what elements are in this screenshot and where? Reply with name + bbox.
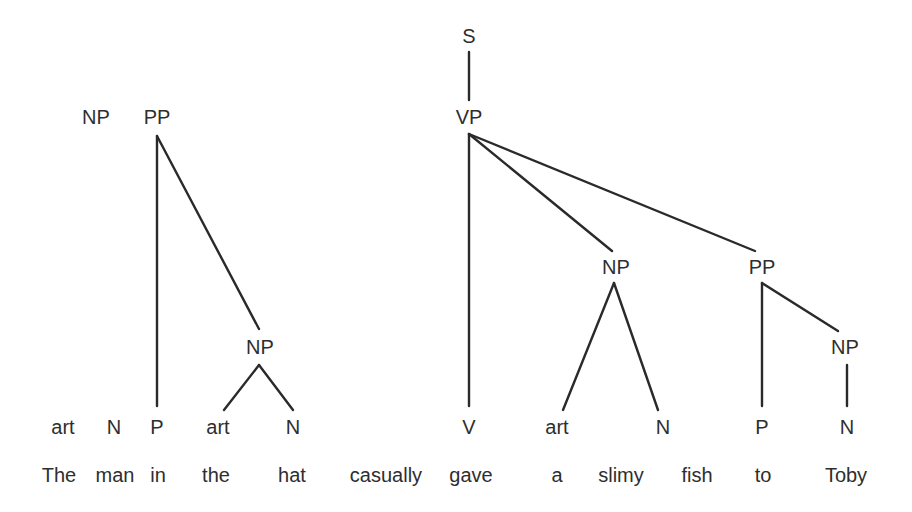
word-hat: hat xyxy=(278,465,306,485)
edge-np_hat-to-art2 xyxy=(224,365,259,410)
node-np_obj: NP xyxy=(602,257,630,277)
word-toby: Toby xyxy=(825,465,867,485)
edge-np_obj-to-n3 xyxy=(614,283,658,410)
node-pp_left: PP xyxy=(144,107,171,127)
word-the: The xyxy=(42,465,76,485)
node-np_top: NP xyxy=(82,107,110,127)
node-art1: art xyxy=(51,417,74,437)
node-art2: art xyxy=(206,417,229,437)
node-np_toby: NP xyxy=(831,337,859,357)
edge-vp-to-np_obj xyxy=(469,134,612,251)
edge-np_obj-to-art3 xyxy=(563,283,614,410)
edge-vp-to-pp_to xyxy=(469,134,755,251)
word-a: a xyxy=(551,465,562,485)
node-pp_to: PP xyxy=(749,257,776,277)
node-p2: P xyxy=(755,417,768,437)
node-p1: P xyxy=(150,417,163,437)
word-slimy: slimy xyxy=(598,465,644,485)
word-casually: casually xyxy=(350,465,422,485)
word-to: to xyxy=(755,465,772,485)
word-man: man xyxy=(96,465,135,485)
node-art3: art xyxy=(545,417,568,437)
edge-pp_to-to-np_toby xyxy=(762,283,838,331)
node-n4: N xyxy=(840,417,854,437)
node-np_hat: NP xyxy=(246,337,274,357)
word-in: in xyxy=(150,465,166,485)
edge-pp_left-to-np_hat xyxy=(157,136,259,329)
node-n2: N xyxy=(286,417,300,437)
node-n1: N xyxy=(107,417,121,437)
word-gave: gave xyxy=(449,465,492,485)
node-n3: N xyxy=(656,417,670,437)
node-vp: VP xyxy=(456,107,483,127)
node-v: V xyxy=(462,417,475,437)
node-s: S xyxy=(462,26,475,46)
edge-np_hat-to-n2 xyxy=(259,365,293,410)
word-fish: fish xyxy=(681,465,712,485)
word-the: the xyxy=(202,465,230,485)
